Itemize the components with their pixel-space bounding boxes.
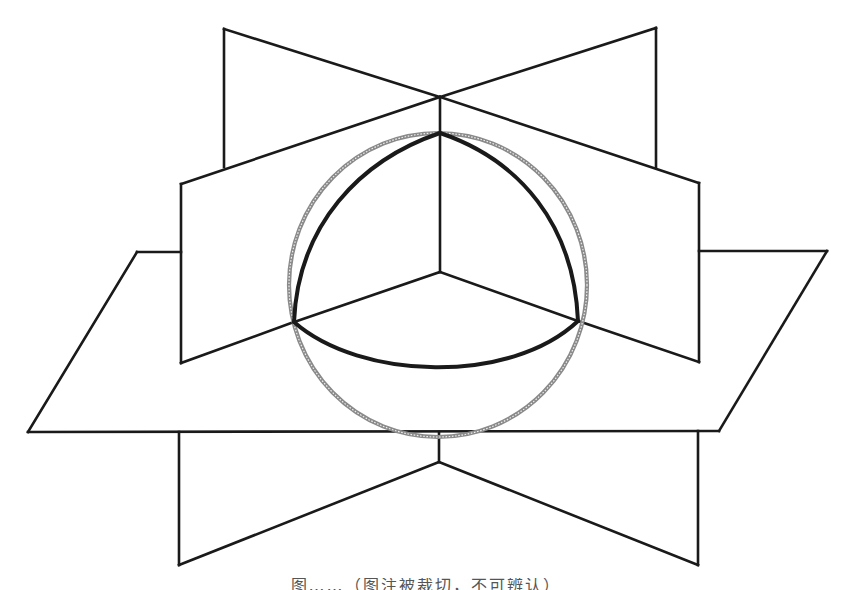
plane-edge [578,321,699,362]
plane-edge [181,322,294,363]
lower-vertical-planes [179,431,698,565]
arc-bottom [294,321,578,367]
plane-edge [224,29,440,97]
figure-caption: 图……（图注被裁切，不可辨认） [0,578,851,590]
plane-edge [181,97,440,184]
sphere-outline [289,133,587,437]
plane-intersection-right [440,272,578,321]
plane-edge [179,462,439,565]
plane-edge [439,462,698,565]
arc-right [440,133,578,321]
plane-intersection-left [294,272,440,322]
three-planes-sphere-diagram [0,0,851,590]
plane-edge [440,28,656,97]
plane-edge [28,431,719,432]
plane-edge [719,251,827,431]
upper-vertical-planes [181,28,699,363]
plane-edge [28,252,137,432]
horizontal-plane [28,251,827,432]
arc-left [294,133,440,322]
